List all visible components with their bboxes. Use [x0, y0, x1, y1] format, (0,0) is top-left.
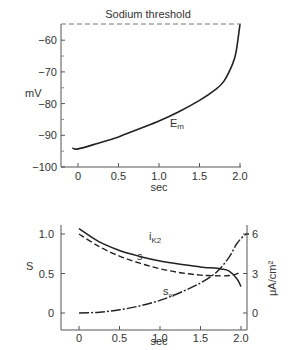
- s-label: s: [137, 250, 143, 262]
- ik2-label: iK2: [149, 230, 162, 245]
- right-y-tick-label: 0: [252, 307, 258, 319]
- threshold-label: Sodium threshold: [105, 8, 191, 20]
- left-y-axis-label: S: [26, 260, 33, 272]
- y-tick-label: −90: [38, 129, 57, 141]
- left-y-tick-label: 0.5: [39, 268, 54, 280]
- s-infinity-label: s∞: [163, 285, 175, 300]
- membrane-potential-chart: Sodium threshold −60−70−80−90−100 00.51.…: [25, 8, 248, 193]
- right-y-tick-label: 6: [252, 228, 258, 240]
- x-tick-label: 0: [75, 170, 81, 182]
- x-tick-label: 1.5: [193, 332, 208, 344]
- s-infinity-curve: [79, 234, 249, 313]
- y-axis-label: mV: [25, 87, 42, 99]
- x-axis-label: sec: [150, 181, 168, 193]
- em-label: Em: [170, 117, 184, 131]
- x-axis-label: sec: [150, 335, 168, 347]
- y-tick-label: −100: [32, 161, 57, 173]
- y-tick-label: −70: [38, 66, 57, 78]
- x-tick-label: 0.5: [111, 170, 126, 182]
- right-y-axis-label: μA/cm²: [266, 261, 278, 296]
- x-tick-label: 2.0: [232, 170, 247, 182]
- left-y-tick-label: 1.0: [39, 228, 54, 240]
- left-y-tick-label: 0: [48, 307, 54, 319]
- y-tick-label: −60: [38, 34, 57, 46]
- y-tick-label: −80: [38, 98, 57, 110]
- figure: Sodium threshold −60−70−80−90−100 00.51.…: [0, 0, 288, 350]
- x-tick-label: 0: [76, 332, 82, 344]
- conductance-chart: 00.51.0 036 00.51.01.52.0 S μA/cm² sec i…: [26, 225, 278, 347]
- x-tick-label: 2.0: [233, 332, 248, 344]
- right-y-tick-label: 3: [252, 268, 258, 280]
- x-tick-label: 1.5: [192, 170, 207, 182]
- em-curve: [72, 24, 240, 149]
- x-tick-label: 0.5: [112, 332, 127, 344]
